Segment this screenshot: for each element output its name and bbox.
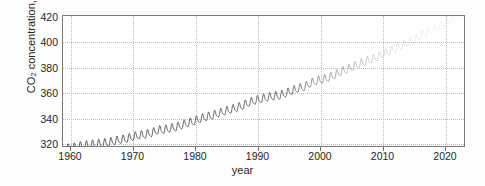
plot-area (62, 15, 465, 147)
co2-curve (63, 16, 465, 147)
x-tick-label-2000: 2000 (297, 150, 343, 162)
x-tick-label-2010: 2010 (360, 150, 406, 162)
co2-line-path (67, 16, 464, 147)
x-tick-label-1970: 1970 (110, 150, 156, 162)
y-tick-label-380: 380 (24, 62, 58, 74)
co2-chart-figure: CO2 concentration, ppm 320 340 360 380 4… (0, 0, 485, 186)
x-tick-label-1960: 1960 (47, 150, 93, 162)
x-tick-label-1980: 1980 (172, 150, 218, 162)
y-tick-label-400: 400 (24, 36, 58, 48)
y-tick-label-360: 360 (24, 87, 58, 99)
y-tick-label-420: 420 (24, 11, 58, 23)
y-tick-label-340: 340 (24, 113, 58, 125)
x-axis-label: year (0, 164, 485, 176)
x-tick-label-2020: 2020 (422, 150, 468, 162)
y-tick-label-320: 320 (24, 138, 58, 150)
x-tick-label-1990: 1990 (235, 150, 281, 162)
